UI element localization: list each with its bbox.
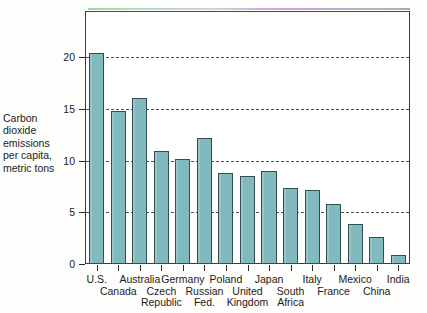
x-axis-label: France <box>317 286 350 298</box>
x-axis-label: Fed. <box>194 297 215 309</box>
x-tick-mark <box>334 265 335 271</box>
x-tick-mark <box>140 265 141 271</box>
x-tick-mark <box>226 265 227 271</box>
bar <box>261 171 276 264</box>
x-tick-mark <box>377 265 378 271</box>
x-tick-mark <box>355 265 356 271</box>
bar <box>391 255 406 264</box>
x-tick-mark <box>269 265 270 271</box>
bar <box>326 204 341 264</box>
x-tick-mark <box>161 265 162 271</box>
x-axis-label: Africa <box>277 297 304 309</box>
x-tick-mark <box>204 265 205 271</box>
co2-emissions-bar-chart: Carbon dioxide emissions per capita, met… <box>0 0 427 313</box>
bar <box>197 138 212 264</box>
bar <box>305 190 320 264</box>
bar <box>132 98 147 264</box>
x-axis-label: India <box>387 274 410 286</box>
x-axis-label: Republic <box>141 297 182 309</box>
x-axis-label: China <box>363 286 390 298</box>
bar <box>111 111 126 264</box>
bar <box>348 224 363 264</box>
bar <box>218 173 233 264</box>
bar <box>240 176 255 264</box>
bar <box>175 159 190 264</box>
x-tick-mark <box>118 265 119 271</box>
x-tick-mark <box>183 265 184 271</box>
bars <box>0 0 427 313</box>
bar <box>283 188 298 264</box>
x-tick-mark <box>248 265 249 271</box>
x-axis-label: Kingdom <box>227 297 268 309</box>
x-tick-mark <box>291 265 292 271</box>
x-tick-mark <box>312 265 313 271</box>
x-tick-mark <box>97 265 98 271</box>
bar <box>89 53 104 264</box>
x-axis-label: Canada <box>100 286 137 298</box>
bar <box>369 237 384 264</box>
x-tick-mark <box>398 265 399 271</box>
bar <box>154 151 169 264</box>
